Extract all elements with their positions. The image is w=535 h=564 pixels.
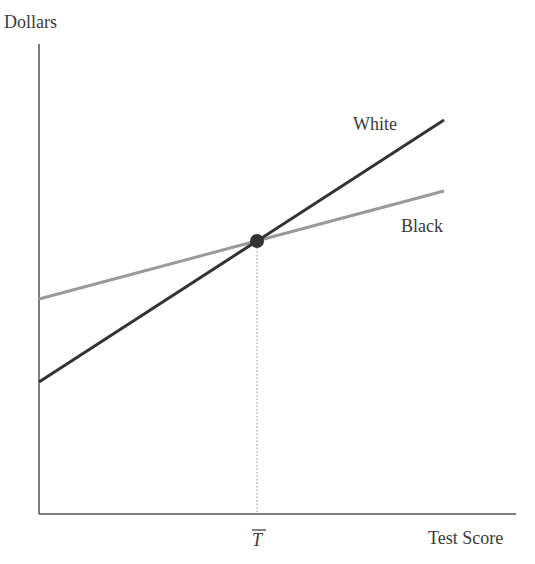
intersection-point (250, 234, 264, 248)
black-series-label: Black (401, 216, 443, 237)
white-series-label: White (353, 114, 397, 135)
y-axis-label: Dollars (4, 12, 57, 33)
tbar-tick-label: T (252, 530, 262, 551)
black-line (39, 191, 444, 299)
chart-canvas (0, 0, 535, 564)
white-line (39, 120, 444, 382)
x-axis-label: Test Score (428, 528, 503, 549)
